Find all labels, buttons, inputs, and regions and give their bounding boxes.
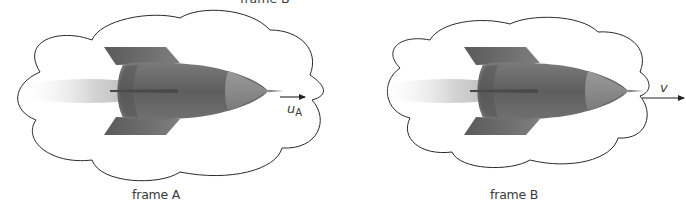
frame-b-prime-label: frame B′ [240,0,292,6]
velocity-label-v: v [660,80,668,95]
velocity-subscript: A [295,107,302,118]
frame-b-label: frame B [490,187,538,202]
frame-a-group [16,10,324,180]
velocity-symbol: u [287,101,295,116]
relative-motion-diagram: frame B′ uA v frame A frame B [0,0,686,209]
frame-a-label: frame A [132,187,180,202]
frame-b-group [376,17,684,167]
rocket-icon [376,47,644,135]
velocity-label-ua: uA [287,101,302,118]
rocket-icon [16,47,284,135]
velocity-symbol: v [660,80,668,95]
